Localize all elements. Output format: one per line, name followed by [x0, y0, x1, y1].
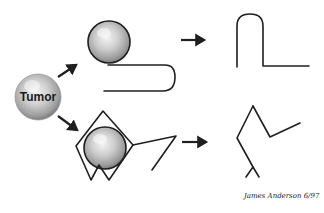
bottom-pathway-cell — [76, 111, 176, 180]
tumor-transformation-diagram: Tumor James Anderson 6/97 — [0, 0, 324, 213]
tumor-cell: Tumor — [15, 74, 61, 120]
zigzag-right — [253, 106, 300, 137]
signature: James Anderson 6/97 — [242, 192, 320, 200]
branch-fork — [246, 167, 259, 177]
top-pathway-cell — [88, 21, 175, 91]
folded-chain — [104, 65, 175, 91]
arrow-to-top-pathway — [58, 65, 76, 77]
angled-chain — [133, 136, 176, 170]
zigzag-left — [237, 106, 253, 167]
hairpin-structure — [237, 14, 309, 67]
tumor-label: Tumor — [20, 90, 57, 104]
arrow-to-bottom-pathway — [58, 116, 77, 130]
